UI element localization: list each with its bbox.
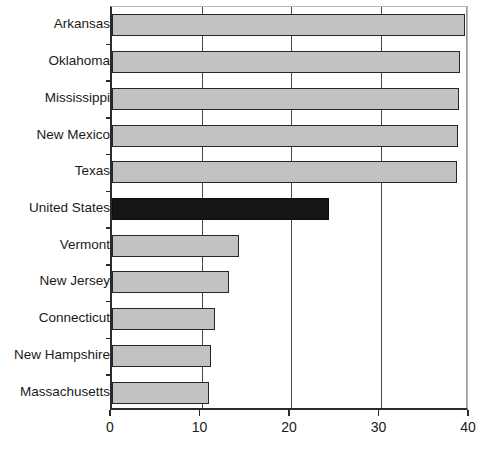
y-axis-tick <box>106 44 112 46</box>
bar-row <box>112 161 470 183</box>
y-axis-label-new-jersey: New Jersey <box>39 270 110 292</box>
plot-area <box>110 6 468 410</box>
bar-texas <box>112 161 457 183</box>
y-axis-tick <box>106 264 112 266</box>
y-axis-label-massachusetts: Massachusetts <box>20 381 110 403</box>
bar-new-hampshire <box>112 345 211 367</box>
bar-mississippi <box>112 88 459 110</box>
y-axis-label-new-hampshire: New Hampshire <box>14 344 110 366</box>
bar-connecticut <box>112 308 215 330</box>
y-axis-label-oklahoma: Oklahoma <box>48 50 110 72</box>
y-axis-tick <box>106 338 112 340</box>
bar-row <box>112 88 470 110</box>
x-axis-label-40: 40 <box>460 419 476 435</box>
y-axis-label-arkansas: Arkansas <box>54 13 110 35</box>
x-axis: 010203040 <box>110 410 468 450</box>
x-axis-label-0: 0 <box>106 419 114 435</box>
bar-chart: ArkansasOklahomaMississippiNew MexicoTex… <box>0 0 484 450</box>
x-axis-label-30: 30 <box>371 419 387 435</box>
x-axis-tick-20 <box>288 410 290 416</box>
bar-row <box>112 345 470 367</box>
bar-row <box>112 51 470 73</box>
x-axis-tick-10 <box>199 410 201 416</box>
bar-row <box>112 125 470 147</box>
bar-row <box>112 14 470 36</box>
x-axis-label-20: 20 <box>281 419 297 435</box>
y-axis-label-new-mexico: New Mexico <box>36 124 110 146</box>
x-axis-label-10: 10 <box>192 419 208 435</box>
y-axis-tick <box>106 154 112 156</box>
y-axis-tick <box>106 227 112 229</box>
y-axis-label-mississippi: Mississippi <box>45 87 110 109</box>
bar-new-jersey <box>112 271 229 293</box>
y-axis-tick <box>106 301 112 303</box>
bar-row <box>112 271 470 293</box>
x-axis-tick-0 <box>109 410 111 416</box>
y-axis-label-united-states: United States <box>29 197 110 219</box>
y-axis-label-texas: Texas <box>75 160 110 182</box>
bar-row <box>112 235 470 257</box>
bar-row <box>112 382 470 404</box>
bar-row <box>112 308 470 330</box>
bar-united-states <box>112 198 329 220</box>
x-axis-tick-30 <box>378 410 380 416</box>
y-axis-tick <box>106 117 112 119</box>
bar-row <box>112 198 470 220</box>
x-axis-tick-40 <box>467 410 469 416</box>
bar-massachusetts <box>112 382 209 404</box>
y-axis-tick <box>106 191 112 193</box>
y-axis-tick <box>106 374 112 376</box>
bar-new-mexico <box>112 125 458 147</box>
y-axis-label-vermont: Vermont <box>60 234 110 256</box>
y-axis-tick <box>106 80 112 82</box>
bar-arkansas <box>112 14 465 36</box>
bar-oklahoma <box>112 51 460 73</box>
bar-vermont <box>112 235 239 257</box>
y-axis-label-connecticut: Connecticut <box>39 307 110 329</box>
